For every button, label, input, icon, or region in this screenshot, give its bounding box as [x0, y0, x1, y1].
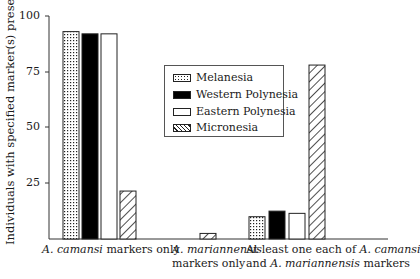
x-label-text: markers [360, 257, 410, 270]
hatch-swatch-icon [173, 124, 191, 132]
x-label-italic: A. camansi [360, 243, 420, 256]
legend-item-eastern-polynesia: Eastern Polynesia [173, 105, 296, 119]
legend-label: Micronesia [196, 121, 258, 134]
bar-micronesia [309, 65, 325, 239]
legend-item-western-polynesia: Western Polynesia [173, 88, 298, 102]
legend-item-micronesia: Micronesia [173, 121, 258, 135]
bar-eastern-polynesia [289, 213, 305, 239]
legend-item-melanesia: Melanesia [173, 71, 253, 85]
x-label-text: At least one each of [246, 243, 360, 256]
y-tick-25: 25 [16, 176, 40, 189]
x-category-label-1: A. camansi markers only [42, 243, 162, 257]
x-category-label-2: A. mariannensis markers only [172, 243, 242, 271]
bar-micronesia [120, 191, 136, 239]
x-label-text: markers only [172, 257, 245, 270]
bar-melanesia [63, 32, 79, 239]
bar-western-polynesia [82, 34, 98, 239]
bar-melanesia [249, 217, 265, 239]
x-label-italic: A. camansi [42, 243, 103, 256]
x-label-text: and [246, 257, 270, 270]
x-label-text: markers only [103, 243, 180, 256]
legend: Melanesia Western Polynesia Eastern Poly… [164, 65, 284, 137]
bar-eastern-polynesia [101, 34, 117, 239]
dotted-swatch-icon [173, 74, 191, 82]
bar-western-polynesia [269, 211, 285, 239]
x-label-italic: A. mariannensis [270, 257, 360, 270]
x-category-label-3: At least one each of A. camansi and A. m… [246, 243, 406, 271]
legend-label: Eastern Polynesia [196, 105, 296, 118]
y-tick-100: 100 [16, 9, 40, 22]
bar-micronesia [200, 233, 216, 239]
solid-swatch-icon [173, 91, 191, 99]
y-tick-50: 50 [16, 120, 40, 133]
legend-label: Melanesia [196, 71, 253, 84]
y-tick-75: 75 [16, 65, 40, 78]
white-swatch-icon [173, 108, 191, 116]
legend-label: Western Polynesia [196, 88, 298, 101]
